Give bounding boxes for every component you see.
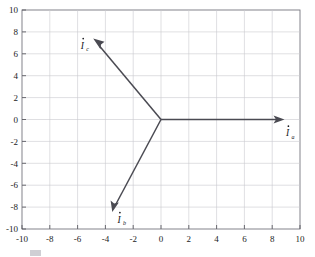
phasor-diagram-figure: 10 8 6 4 2 0 -2 -4 -6 -8 -10 -10 -8 -6 -…: [0, 0, 315, 257]
y-tick-label: -8: [11, 202, 19, 212]
phasor-ib-label-subscript: b: [123, 220, 126, 226]
phasor-ia-label-dot-accent-icon: [288, 125, 290, 127]
x-tick-label: -4: [102, 234, 110, 244]
phasor-ia-label-subscript: a: [291, 134, 294, 140]
y-tick-label: 2: [14, 93, 19, 103]
x-tick-label: -8: [46, 234, 54, 244]
phasor-ib-label-dot-accent-icon: [119, 212, 121, 214]
y-tick-label: -4: [11, 159, 19, 169]
x-tick-label: 4: [214, 234, 219, 244]
phasor-ic-label-subscript: c: [86, 46, 89, 52]
y-tick-label: -10: [6, 224, 18, 234]
phasor-plot-canvas: 10 8 6 4 2 0 -2 -4 -6 -8 -10 -10 -8 -6 -…: [0, 0, 315, 257]
x-tick-label: -10: [16, 234, 28, 244]
x-tick-label: -2: [129, 234, 137, 244]
y-tick-label: 4: [14, 71, 19, 81]
x-tick-label: 10: [296, 234, 306, 244]
x-tick-label: 8: [270, 234, 275, 244]
x-axis-tick-labels: -10 -8 -6 -4 -2 0 2 4 6 8 10: [16, 234, 305, 244]
y-axis-tick-labels: 10 8 6 4 2 0 -2 -4 -6 -8 -10: [6, 5, 19, 234]
caption-artifact: [30, 250, 41, 256]
x-tick-label: -6: [74, 234, 82, 244]
y-tick-label: 6: [14, 49, 19, 59]
x-tick-label: 2: [187, 234, 192, 244]
y-tick-label: 0: [14, 115, 19, 125]
phasor-ic-label-dot-accent-icon: [82, 38, 84, 40]
y-tick-label: -2: [11, 137, 19, 147]
x-tick-label: 6: [242, 234, 247, 244]
x-tick-label: 0: [159, 234, 164, 244]
y-tick-label: -6: [11, 180, 19, 190]
y-tick-label: 8: [14, 27, 19, 37]
y-tick-label: 10: [9, 5, 19, 15]
